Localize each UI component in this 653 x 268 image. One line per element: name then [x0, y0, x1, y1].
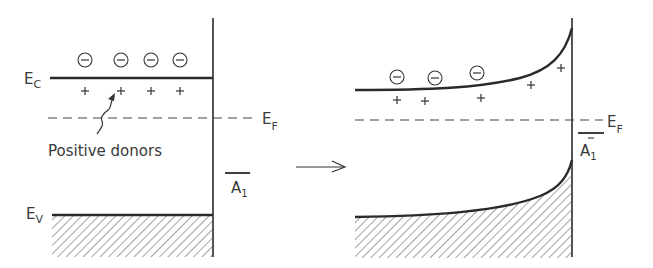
transition-arrow-icon [296, 161, 345, 172]
left-panel: EC EV EF Positive donors A1 [24, 18, 278, 259]
left-donors [81, 87, 184, 95]
left-ef-label: EF [262, 110, 278, 133]
donor-plus-icon [421, 97, 429, 105]
electron-icon [173, 53, 187, 67]
left-valence-hatch [52, 215, 213, 257]
donor-plus-icon [393, 96, 401, 104]
left-surface-state-label: A1 [231, 179, 248, 199]
electron-icon [470, 66, 484, 80]
electron-icon [114, 53, 128, 67]
right-ef-label: EF [607, 113, 623, 136]
donor-plus-icon [81, 87, 89, 95]
left-ev-label: EV [26, 205, 43, 226]
donor-plus-icon [147, 87, 155, 95]
donor-plus-icon [557, 64, 565, 72]
donor-plus-icon [176, 87, 184, 95]
positive-donors-label: Positive donors [48, 142, 162, 160]
donor-plus-icon [527, 81, 535, 89]
left-ec-label: EC [24, 70, 41, 91]
electron-icon [428, 71, 442, 85]
right-panel: EF A1 [355, 18, 623, 258]
electron-icon [78, 53, 92, 67]
donor-plus-icon [117, 87, 125, 95]
band-diagram: EC EV EF Positive donors A1 [0, 0, 653, 268]
right-surface-state-label: A1 [580, 142, 597, 162]
electron-icon [144, 53, 158, 67]
electron-icon [390, 70, 404, 84]
right-conduction-band [355, 28, 572, 90]
right-electrons [390, 66, 484, 85]
annotation-arrow-icon [97, 93, 115, 134]
donor-plus-icon [477, 94, 485, 102]
right-valence-hatch [355, 160, 572, 258]
left-electrons [78, 53, 187, 67]
